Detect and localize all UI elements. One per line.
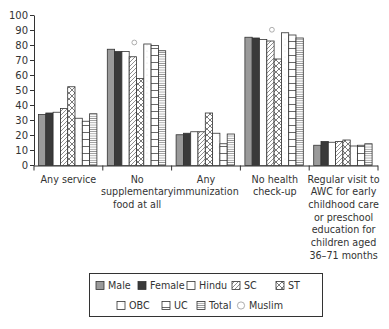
- y-tick-label: 50: [15, 85, 28, 96]
- bar-hindu: [260, 40, 267, 166]
- bar-st: [68, 87, 75, 166]
- legend-item-female: Female: [138, 280, 185, 291]
- bar-male: [176, 135, 183, 166]
- legend-label: Hindu: [199, 280, 227, 291]
- bar-hindu: [328, 142, 335, 165]
- legend-swatch-sc: [232, 282, 240, 290]
- bar-obc: [350, 146, 357, 166]
- legend-swatch-obc: [117, 302, 125, 310]
- bar-obc: [144, 44, 151, 166]
- bars: [39, 33, 373, 166]
- bar-sc: [336, 142, 343, 166]
- legend-item-st: ST: [276, 280, 300, 291]
- bar-total: [227, 134, 234, 166]
- category-labels: Any serviceNosupplementaryfood at allAny…: [41, 174, 380, 261]
- bar-sc: [129, 57, 136, 166]
- y-tick-label: 100: [9, 10, 28, 21]
- y-tick-label: 90: [15, 25, 28, 36]
- y-tick-label: 30: [15, 115, 28, 126]
- category-label: No healthcheck-up: [252, 174, 298, 198]
- legend-label: SC: [244, 280, 257, 291]
- bar-st: [205, 113, 212, 166]
- legend-item-sc: SC: [232, 280, 257, 291]
- bar-obc: [213, 133, 220, 165]
- bar-female: [46, 113, 53, 166]
- legend-label: Female: [150, 280, 185, 291]
- legend-item-total: Total: [197, 300, 231, 311]
- bar-st: [137, 79, 144, 166]
- legend-swatch-uc: [162, 302, 170, 310]
- legend: MaleFemaleHinduSCSTOBCUCTotalMuslim: [90, 274, 323, 317]
- bar-male: [245, 37, 252, 165]
- legend-swatch-total: [197, 302, 205, 310]
- marker-muslim: [270, 27, 275, 32]
- bar-uc: [220, 144, 227, 166]
- legend-label: UC: [174, 300, 188, 311]
- bar-female: [321, 142, 328, 166]
- bar-hindu: [53, 112, 60, 165]
- bar-total: [296, 38, 303, 166]
- y-tick-label: 20: [15, 130, 28, 141]
- legend-item-uc: UC: [162, 300, 188, 311]
- category-label: Regular visit toAWC for earlychildhood c…: [307, 174, 379, 261]
- bar-st: [343, 140, 350, 166]
- bar-male: [107, 49, 114, 165]
- legend-item-male: Male: [96, 280, 131, 291]
- bar-sc: [60, 109, 67, 166]
- bar-hindu: [191, 132, 198, 166]
- bar-female: [183, 133, 190, 165]
- bar-female: [115, 52, 122, 166]
- bar-total: [90, 114, 97, 166]
- legend-item-obc: OBC: [117, 300, 150, 311]
- legend-swatch-hindu: [187, 282, 195, 290]
- bar-total: [365, 144, 372, 166]
- legend-swatch-st: [276, 282, 284, 290]
- bar-st: [274, 59, 281, 166]
- bar-uc: [151, 46, 158, 166]
- legend-label: Male: [108, 280, 131, 291]
- bar-uc: [82, 121, 89, 165]
- bar-uc: [358, 145, 365, 165]
- legend-swatch-male: [96, 282, 104, 290]
- category-label: Anyimmunization: [173, 174, 238, 198]
- bar-total: [158, 51, 165, 166]
- legend-swatch-muslim: [237, 302, 244, 309]
- y-tick-label: 40: [15, 100, 28, 111]
- legend-label: OBC: [129, 300, 150, 311]
- y-tick-label: 60: [15, 70, 28, 81]
- category-label: Nosupplementaryfood at all: [101, 174, 174, 210]
- legend-swatch-female: [138, 282, 146, 290]
- category-label: Any service: [41, 174, 97, 185]
- bar-chart: 0102030405060708090100 Any serviceNosupp…: [0, 0, 389, 329]
- bar-uc: [289, 35, 296, 166]
- legend-label: ST: [288, 280, 300, 291]
- y-tick-label: 70: [15, 55, 28, 66]
- bar-obc: [281, 33, 288, 166]
- bar-sc: [198, 132, 205, 166]
- y-tick-label: 0: [22, 160, 28, 171]
- y-tick-label: 10: [15, 145, 28, 156]
- y-tick-label: 80: [15, 40, 28, 51]
- bar-male: [39, 115, 46, 166]
- bar-male: [314, 145, 321, 165]
- legend-item-hindu: Hindu: [187, 280, 227, 291]
- marker-muslim: [132, 40, 137, 45]
- bar-obc: [75, 118, 82, 165]
- bar-female: [252, 38, 259, 166]
- legend-label: Muslim: [249, 300, 283, 311]
- bar-sc: [267, 41, 274, 166]
- legend-label: Total: [208, 300, 231, 311]
- bar-hindu: [122, 52, 129, 166]
